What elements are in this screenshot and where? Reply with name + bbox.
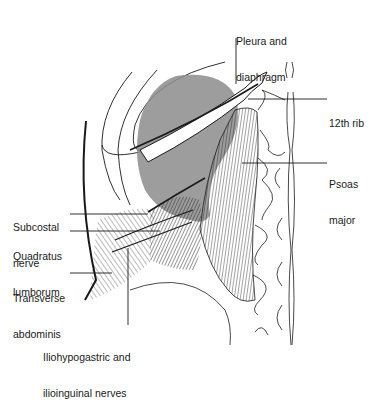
- label-line: diaphragm: [236, 71, 287, 83]
- label-line: Pleura and: [236, 35, 287, 47]
- label-line: Quadratus: [13, 250, 62, 262]
- label-pleura-diaphragm: Pleura and diaphragm: [236, 11, 287, 95]
- label-12th-rib: 12th rib: [329, 93, 364, 141]
- transverse-abdominis: [90, 209, 155, 300]
- label-line: Transverse: [13, 292, 65, 304]
- label-line: ilioinguinal nerves: [43, 387, 131, 399]
- quadratus-lumborum: [150, 197, 202, 270]
- label-iliohypogastric-ilioinguinal: Iliohypogastric and ilioinguinal nerves: [43, 327, 131, 403]
- label-line: Iliohypogastric and: [43, 351, 131, 363]
- vertebral-column: [253, 62, 295, 345]
- label-line: major: [329, 214, 358, 226]
- label-psoas-major: Psoas major: [329, 154, 358, 238]
- iliac-crest: [130, 282, 230, 345]
- label-line: Psoas: [329, 178, 358, 190]
- label-line: 12th rib: [329, 117, 364, 129]
